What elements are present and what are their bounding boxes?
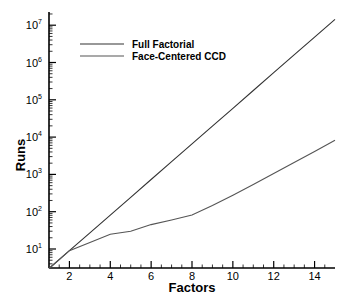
x-tick-label: 4 xyxy=(107,270,113,282)
legend: Full Factorial Face-Centered CCD xyxy=(80,39,226,62)
y-axis-ticks: 101102103104105106107 xyxy=(26,18,56,255)
y-tick-label: 107 xyxy=(26,18,42,31)
x-tick-label: 2 xyxy=(66,270,72,282)
legend-label-face-centered-ccd: Face-Centered CCD xyxy=(132,51,226,62)
x-tick-label: 14 xyxy=(308,270,320,282)
x-tick-label: 6 xyxy=(148,270,154,282)
y-axis-title: Runs xyxy=(13,139,28,172)
y-tick-label: 104 xyxy=(26,130,42,143)
x-tick-label: 10 xyxy=(227,270,239,282)
y-tick-label: 101 xyxy=(26,242,42,255)
y-tick-label: 105 xyxy=(26,93,42,106)
y-tick-label: 102 xyxy=(26,205,42,218)
x-tick-label: 12 xyxy=(268,270,280,282)
y-tick-label: 103 xyxy=(26,167,42,180)
x-axis-ticks: 2468101214 xyxy=(66,261,320,282)
series-line-face-centered-ccd xyxy=(49,140,335,268)
x-axis-title: Factors xyxy=(169,280,216,295)
y-tick-label: 106 xyxy=(26,56,42,69)
chart: 101102103104105106107 2468101214 Full Fa… xyxy=(0,0,353,306)
legend-label-full-factorial: Full Factorial xyxy=(132,39,194,50)
